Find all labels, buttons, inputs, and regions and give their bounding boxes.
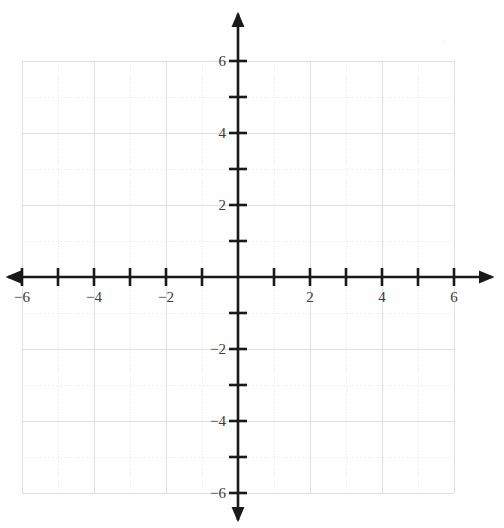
x-axis-tick-label: 4 bbox=[378, 290, 386, 305]
y-axis-tick-label: 4 bbox=[219, 126, 227, 141]
y-axis-tick-label: −6 bbox=[210, 486, 226, 501]
y-axis-tick-label: −2 bbox=[210, 342, 226, 357]
x-axis-tick-label: 2 bbox=[306, 290, 314, 305]
y-axis-tick-label: −4 bbox=[210, 414, 226, 429]
axis-lines bbox=[8, 14, 492, 520]
x-axis-tick-label: −4 bbox=[86, 290, 102, 305]
coordinate-plane-figure: −6−4−2246642−2−4−6 bbox=[0, 0, 504, 528]
x-axis-tick-label: −2 bbox=[158, 290, 174, 305]
x-axis-tick-label: −6 bbox=[14, 290, 30, 305]
coordinate-plane-svg bbox=[0, 0, 504, 528]
y-axis-tick-label: 2 bbox=[219, 198, 227, 213]
y-axis-tick-label: 6 bbox=[219, 54, 227, 69]
x-axis-tick-label: 6 bbox=[450, 290, 458, 305]
